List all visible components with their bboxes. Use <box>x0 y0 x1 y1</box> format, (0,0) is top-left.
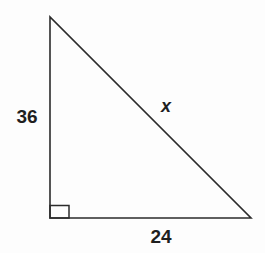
label-horizontal-leg: 24 <box>150 227 171 246</box>
right-angle-marker <box>50 206 69 219</box>
label-hypotenuse: x <box>161 97 171 115</box>
triangle-canvas <box>0 0 265 253</box>
right-triangle-figure: 36 x 24 <box>0 0 265 253</box>
triangle-outline <box>50 17 251 218</box>
label-vertical-leg: 36 <box>16 107 37 126</box>
